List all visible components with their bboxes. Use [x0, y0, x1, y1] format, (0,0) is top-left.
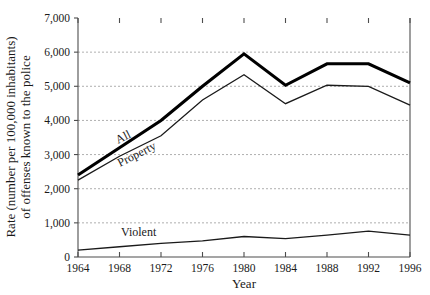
x-tick-label: 1968 [108, 262, 131, 274]
x-tick-label: 1988 [316, 262, 339, 274]
x-tick-label: 1996 [399, 262, 422, 274]
y-tick-label: 3,000 [44, 149, 70, 162]
y-axis-ticks: 01,0002,0003,0004,0005,0006,0007,000 [44, 12, 78, 263]
series-label-all: All [113, 127, 134, 147]
x-tick-label: 1976 [191, 262, 214, 274]
x-tick-label: 1984 [274, 262, 297, 274]
x-axis-title: Year [232, 276, 257, 291]
series-inline-labels: All Property Violent [113, 127, 158, 239]
y-tick-label: 4,000 [44, 114, 70, 127]
y-tick-label: 5,000 [44, 80, 70, 93]
x-tick-label: 1980 [233, 262, 256, 274]
y-tick-label: 2,000 [44, 183, 70, 196]
x-tick-label: 1964 [67, 262, 90, 274]
series-label-violent: Violent [121, 225, 157, 239]
x-tick-label: 1972 [150, 262, 173, 274]
y-axis-title-line1: Rate (number per 100,000 inhabitants) [3, 36, 18, 237]
chart-canvas: 01,0002,0003,0004,0005,0006,0007,000 196… [0, 0, 430, 295]
y-axis-title-line2: of offenses known to the police [18, 55, 33, 219]
y-tick-label: 1,000 [44, 217, 70, 230]
crime-rate-line-chart: 01,0002,0003,0004,0005,0006,0007,000 196… [0, 0, 430, 295]
x-tick-label: 1992 [357, 262, 380, 274]
y-tick-label: 6,000 [44, 46, 70, 59]
y-tick-label: 7,000 [44, 12, 70, 25]
